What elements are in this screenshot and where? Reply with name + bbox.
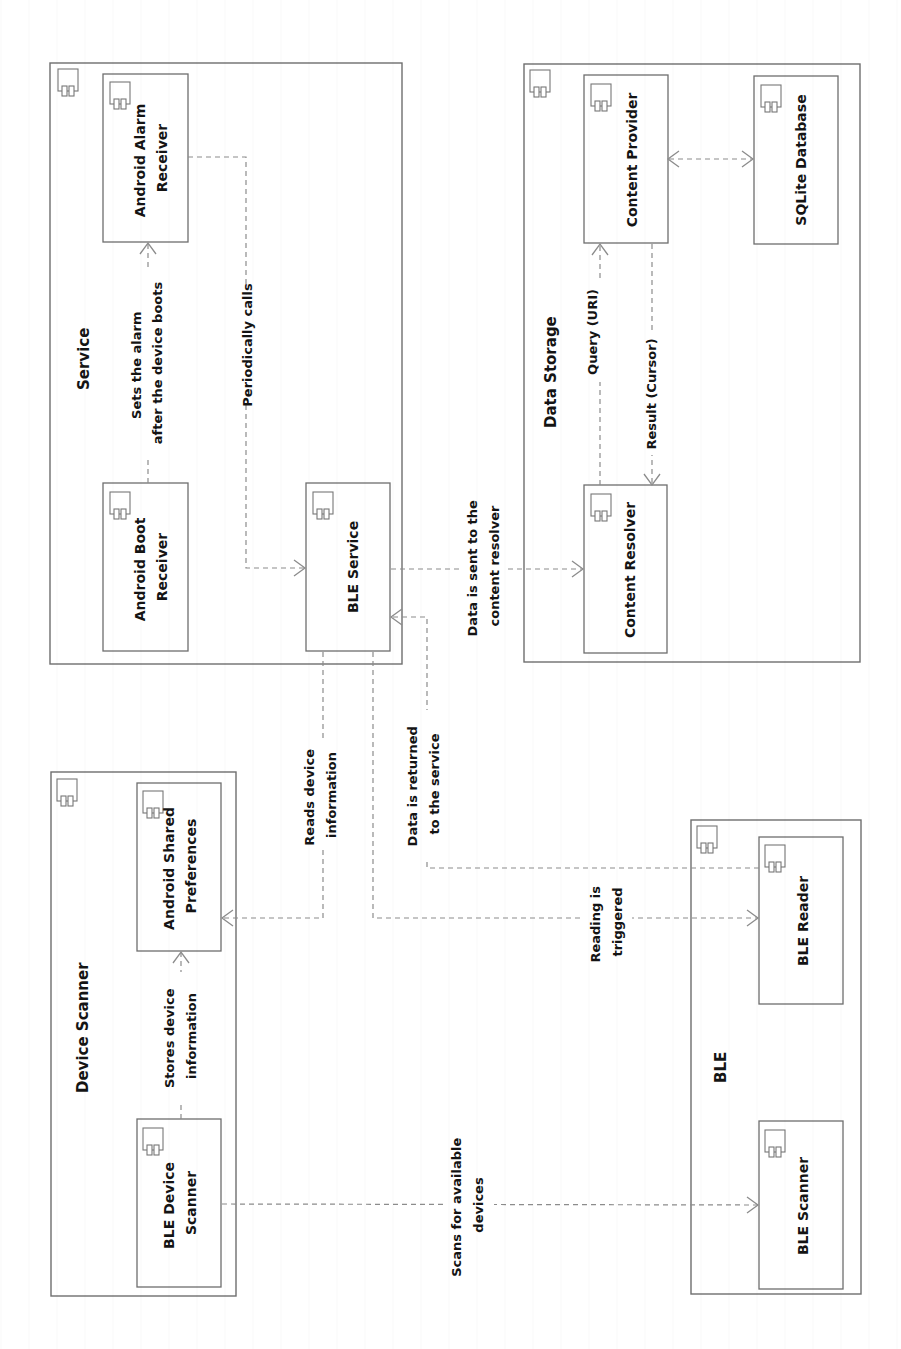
component-icon: [58, 69, 78, 96]
svg-text:Result (Cursor): Result (Cursor): [644, 338, 659, 449]
component-label: Content Provider: [624, 93, 640, 228]
component-ble-reader[interactable]: BLE Reader: [759, 837, 843, 1004]
edge-result-cursor: Result (Cursor): [640, 244, 664, 485]
edge-scans-devices: Scans for available devices: [222, 1128, 758, 1280]
component-label: BLE Service: [345, 521, 361, 613]
component-ble-service[interactable]: BLE Service: [306, 483, 390, 651]
edge-query-uri: Query (URI): [585, 244, 612, 485]
component-diagram: Service Android Alarm Receiver Android B…: [0, 0, 901, 1349]
component-label: BLE Reader: [795, 876, 811, 966]
component-label: SQLite Database: [793, 94, 809, 225]
component-android-alarm-receiver[interactable]: Android Alarm Receiver: [103, 74, 188, 242]
component-icon: [697, 826, 717, 853]
edge-periodically-calls: Periodically calls: [188, 157, 305, 576]
component-sqlite-database[interactable]: SQLite Database: [754, 76, 838, 244]
component-icon: [530, 70, 550, 97]
svg-text:Query (URI): Query (URI): [585, 289, 600, 375]
component-ble-scanner[interactable]: BLE Scanner: [759, 1121, 843, 1289]
package-device-scanner-title: Device Scanner: [74, 962, 92, 1093]
edge-data-sent: Data is sent to the content resolver: [391, 496, 583, 637]
package-ble-title: BLE: [712, 1052, 730, 1083]
component-label: Android Alarm: [132, 104, 148, 218]
component-label: Content Resolver: [622, 502, 638, 638]
package-service-title: Service: [75, 328, 93, 390]
component-label: BLE Scanner: [795, 1157, 811, 1255]
component-content-resolver[interactable]: Content Resolver: [584, 485, 667, 653]
component-ble-device-scanner[interactable]: BLE Device Scanner: [137, 1119, 221, 1287]
component-content-provider[interactable]: Content Provider: [584, 75, 668, 243]
component-icon: [57, 779, 77, 806]
edge-stores-info: Stores device information: [158, 952, 204, 1119]
svg-text:Periodically calls: Periodically calls: [240, 283, 255, 407]
component-android-shared-preferences[interactable]: Android Shared Preferences: [137, 783, 221, 951]
component-label: Android Shared: [161, 807, 177, 930]
component-android-boot-receiver[interactable]: Android Boot Receiver: [103, 483, 188, 651]
edge-sets-alarm: Sets the alarm after the device boots: [125, 243, 171, 483]
edge-provider-sqlite: [668, 151, 753, 167]
component-label: Android Boot: [132, 517, 148, 621]
component-label: BLE Device: [161, 1162, 177, 1249]
edge-reads-info: Reads device information: [222, 652, 346, 926]
package-data-storage-title: Data Storage: [542, 316, 560, 428]
